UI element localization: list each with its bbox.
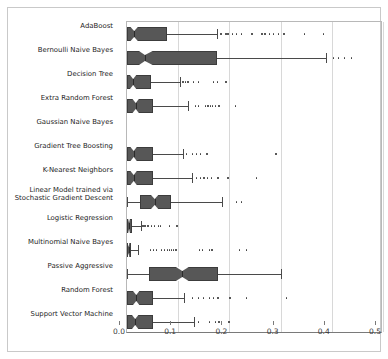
whisker-cap: [127, 197, 128, 207]
outlier-point: [198, 105, 199, 106]
outlier-point: [156, 249, 157, 250]
outlier-point: [213, 297, 214, 298]
whisker-cap: [281, 269, 282, 279]
median-line: [133, 79, 134, 86]
outlier-point: [278, 33, 279, 34]
box: [127, 99, 153, 114]
x-axis-tick-label: 0.2: [215, 327, 227, 336]
x-axis-tick-label: 0.1: [164, 327, 176, 336]
outlier-point: [185, 81, 186, 82]
gridline: [281, 22, 282, 332]
outlier-point: [217, 81, 218, 82]
whisker-line: [153, 322, 194, 323]
category-label: Linear Model trained via Stochastic Grad…: [13, 186, 113, 202]
outlier-point: [198, 81, 199, 82]
outlier-point: [176, 225, 177, 226]
gridline: [229, 22, 230, 332]
median-line: [129, 223, 130, 230]
outlier-point: [212, 105, 213, 106]
x-axis-tick: [119, 321, 120, 325]
boxplot-axes: [126, 21, 382, 333]
outlier-point: [160, 225, 161, 226]
whisker-line: [167, 34, 217, 35]
outlier-point: [217, 297, 218, 298]
outlier-point: [213, 81, 214, 82]
whisker-line: [217, 58, 326, 59]
outlier-point: [207, 177, 208, 178]
whisker-cap: [188, 101, 189, 111]
whisker-line: [153, 298, 185, 299]
outlier-point: [275, 153, 276, 154]
x-axis-tick-label: 0.5: [369, 327, 381, 336]
outlier-point: [154, 225, 155, 226]
outlier-point: [304, 33, 305, 34]
whisker-line: [153, 154, 184, 155]
whisker-line: [151, 82, 180, 83]
whisker-line: [132, 226, 141, 227]
outlier-point: [182, 81, 183, 82]
whisker-cap: [127, 269, 128, 279]
whisker-cap: [183, 149, 184, 159]
outlier-point: [283, 33, 284, 34]
outlier-point: [232, 33, 233, 34]
whisker-line: [127, 202, 140, 203]
median-line: [155, 199, 156, 206]
outlier-point: [144, 225, 145, 226]
outlier-point: [235, 105, 236, 106]
gridline: [383, 22, 384, 332]
category-label: Bernoulli Naive Bayes: [13, 46, 113, 54]
whisker-line: [218, 274, 280, 275]
category-label: AdaBoost: [13, 22, 113, 30]
outlier-point: [192, 153, 193, 154]
box: [127, 147, 153, 162]
outlier-point: [225, 81, 226, 82]
outlier-point: [241, 201, 242, 202]
outlier-point: [236, 201, 237, 202]
outlier-point: [215, 105, 216, 106]
outlier-point: [286, 297, 287, 298]
outlier-point: [323, 33, 324, 34]
whisker-line: [171, 202, 222, 203]
outlier-point: [261, 33, 262, 34]
outlier-point: [203, 177, 204, 178]
outlier-point: [228, 321, 229, 322]
outlier-point: [211, 249, 212, 250]
outlier-point: [200, 153, 201, 154]
outlier-point: [227, 177, 228, 178]
whisker-cap: [180, 77, 181, 87]
category-label: Multinomial Naive Bayes: [13, 238, 113, 246]
outlier-point: [202, 249, 203, 250]
median-line: [134, 31, 135, 38]
category-label: Gradient Tree Boosting: [13, 142, 113, 150]
median-line: [136, 295, 137, 302]
gridline: [178, 22, 179, 332]
outlier-point: [246, 249, 247, 250]
outlier-point: [333, 57, 334, 58]
category-label: Extra Random Forest: [13, 94, 113, 102]
box: [127, 315, 153, 330]
outlier-point: [218, 321, 219, 322]
outlier-point: [256, 177, 257, 178]
median-line: [134, 175, 135, 182]
x-axis-tick-label: 0.0: [113, 327, 125, 336]
outlier-point: [220, 33, 221, 34]
figure-frame: 0.00.10.20.30.40.5AdaBoostBernoulli Naiv…: [7, 7, 381, 352]
whisker-cap: [138, 245, 139, 255]
outlier-point: [236, 33, 237, 34]
box: [127, 171, 153, 186]
whisker-cap: [184, 293, 185, 303]
median-line: [129, 247, 130, 254]
x-axis-tick: [273, 321, 274, 325]
outlier-point: [251, 33, 252, 34]
box: [127, 51, 217, 66]
outlier-point: [200, 177, 201, 178]
x-axis-tick: [170, 321, 171, 325]
outlier-point: [206, 153, 207, 154]
outlier-point: [161, 249, 162, 250]
median-line: [134, 151, 135, 158]
outlier-point: [193, 81, 194, 82]
outlier-point: [338, 57, 339, 58]
outlier-point: [229, 297, 230, 298]
whisker-cap: [194, 317, 195, 327]
category-label: Gaussian Naive Bayes: [13, 118, 113, 126]
